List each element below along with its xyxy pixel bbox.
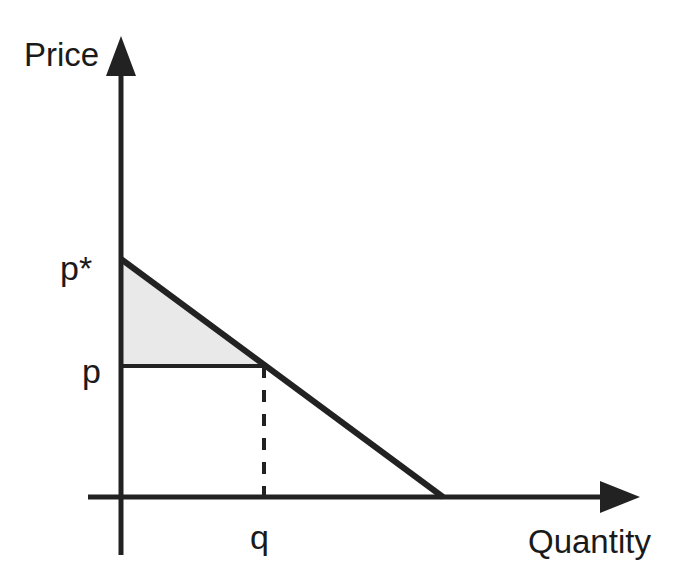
q-label: q [250, 518, 269, 556]
chart-canvas: Price Quantity p* p q [0, 0, 689, 573]
y-axis-title: Price [24, 36, 99, 73]
p-label: p [82, 352, 101, 390]
figure-background [0, 0, 689, 573]
consumer-surplus-figure: Price Quantity p* p q [0, 0, 689, 573]
p-star-label: p* [60, 249, 92, 287]
x-axis-title: Quantity [528, 523, 651, 560]
